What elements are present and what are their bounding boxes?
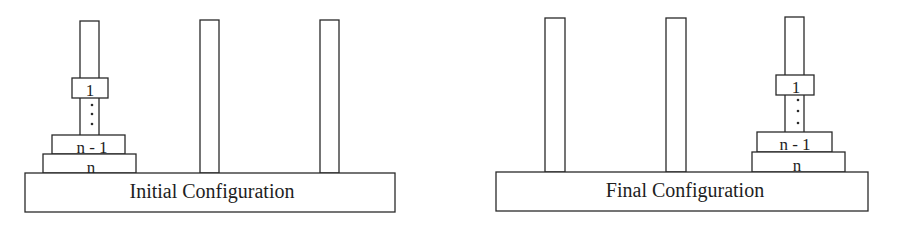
ellipsis-dot xyxy=(91,123,94,126)
disk-label: 1 xyxy=(792,78,801,97)
ellipsis-dot xyxy=(797,122,800,125)
ellipsis-dot xyxy=(91,104,94,107)
caption-final-configuration: Final Configuration xyxy=(606,179,764,202)
ellipsis-dot xyxy=(797,99,800,102)
disk-1: 1 xyxy=(776,75,814,97)
peg-2 xyxy=(200,20,219,173)
towers-of-hanoi-diagram: 1 n - 1 n Initial Configuration 1 xyxy=(0,0,897,230)
ellipsis-dot xyxy=(797,110,800,113)
ellipsis-dot xyxy=(91,113,94,116)
panel-initial-configuration: 1 n - 1 n Initial Configuration xyxy=(25,20,395,212)
peg-2 xyxy=(666,18,686,172)
disk-label: n - 1 xyxy=(779,135,810,154)
caption-initial-configuration: Initial Configuration xyxy=(130,180,295,203)
peg-3 xyxy=(320,20,339,173)
disk-label: 1 xyxy=(86,81,95,100)
panel-final-configuration: 1 n - 1 n Final Configuration xyxy=(496,17,868,211)
disk-1: 1 xyxy=(72,78,108,100)
base: Final Configuration xyxy=(496,172,868,211)
peg-1 xyxy=(545,18,565,172)
base: Initial Configuration xyxy=(25,173,395,212)
disk-n-minus-1: n - 1 xyxy=(757,132,832,154)
